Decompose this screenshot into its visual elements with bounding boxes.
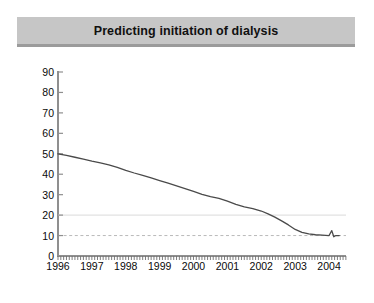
x-axis-line — [57, 255, 346, 257]
x-tick-label: 1997 — [80, 260, 103, 272]
y-axis-line — [57, 71, 59, 257]
y-tick-label: 90 — [32, 66, 54, 78]
x-tick-label: 1998 — [114, 260, 137, 272]
figure-container: Predicting initiation of dialysis 010203… — [0, 0, 374, 303]
x-tick-label: 2002 — [250, 260, 273, 272]
y-tick-label: 70 — [32, 107, 54, 119]
y-tick-label: 40 — [32, 168, 54, 180]
plot-area — [58, 72, 346, 256]
x-tick-label: 2003 — [283, 260, 306, 272]
x-tick-label: 2001 — [216, 260, 239, 272]
title-separator-rule — [17, 44, 355, 47]
y-tick-label: 10 — [32, 230, 54, 242]
x-tick-label: 2000 — [182, 260, 205, 272]
y-tick-label: 20 — [32, 209, 54, 221]
y-tick-label: 80 — [32, 86, 54, 98]
page-title: Predicting initiation of dialysis — [94, 24, 279, 38]
x-tick-label: 2004 — [317, 260, 340, 272]
x-axis-tick-labels: 199619971998199920002001200220032004 — [0, 260, 374, 276]
y-tick-label: 50 — [32, 148, 54, 160]
y-tick-label: 60 — [32, 127, 54, 139]
chart-title-banner: Predicting initiation of dialysis — [17, 17, 355, 44]
y-tick-label: 30 — [32, 189, 54, 201]
y-axis-tick-labels: 0102030405060708090 — [28, 0, 54, 303]
x-tick-label: 1999 — [148, 260, 171, 272]
x-tick-label: 1996 — [46, 260, 69, 272]
